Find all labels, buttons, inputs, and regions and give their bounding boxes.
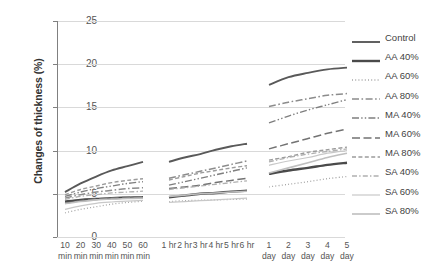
legend-item-ma-80[interactable]: MA 80% [352,143,446,162]
legend-item-control[interactable]: Control [352,28,446,47]
series-line-ma-60 [169,178,247,188]
legend-item-label: MA 60% [385,128,420,139]
legend-key-swatch [352,129,380,139]
legend-item-label: SA 60% [385,186,419,197]
legend-key-swatch [352,167,380,177]
series-line-aa-80 [269,94,347,107]
legend-key-swatch [352,90,380,100]
line-chart: Changes of thickness (%) 0510152025 10mi… [0,0,446,279]
series-line-control [269,68,347,85]
y-axis-title: Changes of thickness (%) [32,36,44,206]
legend-item-ma-60[interactable]: MA 60% [352,124,446,143]
legend-key-swatch [352,186,380,196]
legend-item-label: MA 80% [385,147,420,158]
legend-item-sa-80[interactable]: SA 80% [352,201,446,220]
plot-area [57,21,345,237]
series-lines [57,21,345,237]
legend-item-aa-80[interactable]: AA 80% [352,86,446,105]
legend: ControlAA 40%AA 60%AA 80%MA 40%MA 60%MA … [352,28,446,220]
series-line-sa-80 [169,191,247,196]
legend-item-label: AA 40% [385,51,419,62]
legend-item-label: SA 40% [385,166,419,177]
x-tick-label: 5day [327,240,367,261]
legend-item-aa-60[interactable]: AA 60% [352,66,446,85]
legend-item-label: AA 80% [385,90,419,101]
legend-item-ma-40[interactable]: MA 40% [352,105,446,124]
legend-key-swatch [352,109,380,119]
series-line-aa-40 [269,163,347,174]
series-line-aa-80 [169,161,247,178]
legend-item-sa-40[interactable]: SA 40% [352,162,446,181]
legend-item-aa-40[interactable]: AA 40% [352,47,446,66]
legend-item-sa-60[interactable]: SA 60% [352,182,446,201]
legend-item-label: Control [385,32,416,43]
gridline [57,237,345,238]
series-line-ma-60 [269,129,347,149]
legend-key-swatch [352,33,380,43]
y-tick-mark [53,237,57,238]
legend-key-swatch [352,205,380,215]
series-line-control [169,144,247,162]
series-line-sa-40 [169,181,247,190]
legend-key-swatch [352,71,380,81]
series-line-control [65,162,143,192]
series-line-ma-40 [269,100,347,123]
legend-item-label: SA 80% [385,205,419,216]
legend-item-label: AA 60% [385,70,419,81]
series-line-aa-60 [269,177,347,187]
legend-key-swatch [352,148,380,158]
legend-item-label: MA 40% [385,109,420,120]
series-line-ma-80 [169,166,247,180]
legend-key-swatch [352,52,380,62]
series-line-sa-60 [169,198,247,202]
